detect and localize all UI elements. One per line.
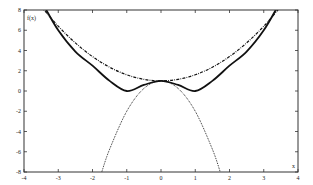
x-tick-label: -3: [56, 175, 61, 181]
x-tick-label: -2: [90, 175, 95, 181]
y-tick-label: 6: [18, 27, 21, 33]
y-tick-label: -4: [16, 129, 21, 135]
y-tick-label: 0: [18, 88, 21, 94]
curve-dash-dot: [41, 6, 281, 80]
x-tick-label: 2: [228, 175, 231, 181]
y-tick-label: -2: [16, 108, 21, 114]
x-tick-label: 0: [160, 175, 163, 181]
axes-frame: [24, 10, 298, 172]
x-tick-label: 1: [194, 175, 197, 181]
curves: [41, 6, 281, 172]
curve-solid: [45, 7, 278, 91]
y-tick-label: -8: [16, 169, 21, 175]
x-tick-label: -4: [22, 175, 27, 181]
y-tick-label: -6: [16, 149, 21, 155]
x-tick-label: -1: [124, 175, 129, 181]
y-tick-label: 4: [18, 48, 21, 54]
y-axis-label: f(x): [27, 15, 36, 22]
chart-canvas: -4-3-2-101234-8-6-4-202468 f(x) x: [0, 0, 313, 185]
x-axis-label: x: [292, 163, 295, 169]
y-tick-label: 2: [18, 68, 21, 74]
x-tick-label: 3: [262, 175, 265, 181]
curve-dotted: [102, 81, 221, 172]
x-tick-label: 4: [297, 175, 300, 181]
y-tick-label: 8: [18, 7, 21, 13]
